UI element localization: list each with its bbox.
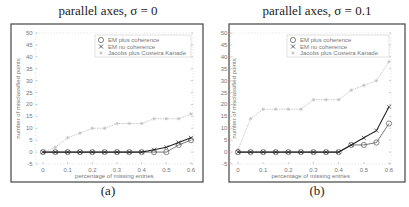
y-tick-label: 35 [26, 66, 33, 72]
y-tick-label: 25 [221, 90, 228, 96]
legend: EM plus coherenceEM no coherenceJacobs p… [287, 35, 389, 57]
x-tick-label: 0.5 [162, 167, 171, 173]
legend-entry: EM plus coherence [108, 37, 160, 43]
y-tick-label: -5 [27, 161, 33, 167]
y-tick-label: 35 [221, 66, 228, 72]
x-tick-label: 0.1 [259, 167, 268, 173]
y-tick-label: 10 [26, 125, 33, 131]
x-axis-label: percentage of missing entries [272, 173, 350, 179]
y-tick-label: 20 [26, 101, 33, 107]
y-tick-label: 45 [26, 42, 33, 48]
y-tick-label: 30 [26, 78, 33, 84]
y-tick-label: 15 [26, 113, 33, 119]
x-tick-label: 0.6 [187, 167, 196, 173]
y-tick-label: 40 [26, 54, 33, 60]
chart-panel-b: -50510152025303540455000.10.20.30.40.50.… [221, 24, 405, 182]
legend-entry: EM no coherence [300, 44, 348, 50]
y-tick-label: 10 [221, 125, 228, 131]
y-tick-label: 5 [224, 137, 228, 143]
y-tick-label: 30 [221, 78, 228, 84]
x-tick-label: 0.6 [385, 167, 394, 173]
y-tick-label: 20 [221, 101, 228, 107]
legend: EM plus coherenceEM no coherenceJacobs p… [95, 35, 191, 57]
x-axis-label: percentage of missing entries [75, 173, 153, 179]
y-tick-label: 50 [26, 30, 33, 36]
legend-entry: EM plus coherence [300, 37, 352, 43]
y-tick-label: 15 [221, 113, 228, 119]
y-axis-label: number of misclassified points [231, 58, 237, 138]
y-axis-label: number of misclassified points [15, 58, 21, 138]
legend-entry: Jacobs plus Costeira Kanade [300, 50, 379, 56]
y-tick-label: -5 [222, 161, 228, 167]
y-tick-label: 45 [221, 42, 228, 48]
chart-panel-a: -50510152025303540455000.10.20.30.40.50.… [11, 24, 203, 182]
y-tick-label: 25 [26, 90, 33, 96]
chart-canvas: -50510152025303540455000.10.20.30.40.50.… [0, 0, 409, 207]
x-tick-label: 0.5 [360, 167, 369, 173]
y-tick-label: 40 [221, 54, 228, 60]
legend-entry: Jacobs plus Costeira Kanade [108, 50, 187, 56]
legend-entry: EM no coherence [108, 44, 156, 50]
x-tick-label: 0.1 [63, 167, 72, 173]
y-tick-label: 50 [221, 30, 228, 36]
y-tick-label: 0 [224, 149, 228, 155]
